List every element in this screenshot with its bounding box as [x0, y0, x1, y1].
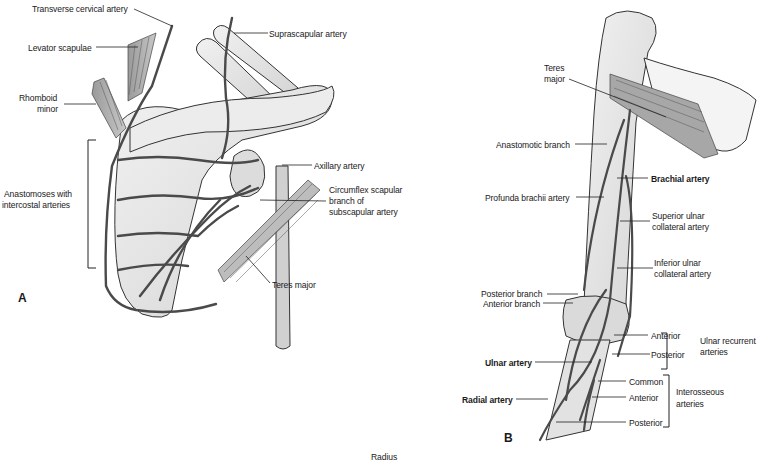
- label-inferior-ulnar-line2: collateral artery: [654, 268, 711, 279]
- label-profunda-brachii-artery: Profunda brachii artery: [485, 192, 569, 203]
- label-interosseous-group-line1: Interosseous: [676, 386, 724, 397]
- label-interosseous-common: Common: [629, 376, 663, 387]
- label-radial-artery: Radial artery: [462, 394, 513, 405]
- label-ulnar-artery: Ulnar artery: [485, 357, 532, 368]
- label-teres-major-b-line1: Teres: [544, 62, 564, 73]
- label-inferior-ulnar-line1: Inferior ulnar: [654, 257, 701, 268]
- label-rhomboid-minor-line1: Rhomboid: [19, 92, 57, 103]
- label-interosseous-group-line2: arteries: [676, 398, 704, 409]
- label-ulnar-recurrent-posterior: Posterior: [651, 349, 684, 360]
- label-anastomoses-line2: intercostal arteries: [2, 199, 70, 210]
- label-rhomboid-minor-line2: minor: [37, 103, 58, 114]
- label-interosseous-anterior: Anterior: [629, 392, 658, 403]
- anastomoses-bracket: [88, 140, 96, 268]
- label-superior-ulnar-line2: collateral artery: [652, 221, 709, 232]
- label-anterior-branch: Anterior branch: [483, 298, 540, 309]
- label-anastomoses-line1: Anastomoses with: [4, 188, 72, 199]
- label-transverse-cervical-artery: Transverse cervical artery: [32, 3, 128, 14]
- rhomboid-minor-muscle: [92, 78, 126, 138]
- label-ulnar-recurrent-group-line2: arteries: [700, 346, 728, 357]
- label-teres-major-b-line2: major: [544, 73, 565, 84]
- label-teres-major-a: Teres major: [272, 279, 316, 290]
- label-interosseous-posterior: Posterior: [629, 417, 662, 428]
- label-axillary-artery: Axillary artery: [314, 160, 364, 171]
- label-anastomotic-branch: Anastomotic branch: [496, 139, 570, 150]
- label-radius: Radius: [371, 451, 397, 462]
- label-suprascapular-artery: Suprascapular artery: [269, 28, 347, 39]
- label-circumflex-scapular-line2: branch of: [329, 195, 364, 206]
- panel-letter-a: A: [18, 291, 27, 305]
- label-superior-ulnar-line1: Superior ulnar: [652, 210, 704, 221]
- label-circumflex-scapular-line3: subscapular artery: [329, 206, 398, 217]
- panel-letter-b: B: [504, 431, 513, 445]
- label-circumflex-scapular-line1: Circumflex scapular: [329, 184, 402, 195]
- label-levator-scapulae: Levator scapulae: [28, 42, 92, 53]
- label-brachial-artery: Brachial artery: [651, 173, 710, 184]
- interosseous-bracket: [663, 375, 669, 427]
- label-ulnar-recurrent-anterior: Anterior: [651, 330, 680, 341]
- label-ulnar-recurrent-group-line1: Ulnar recurrent: [700, 335, 756, 346]
